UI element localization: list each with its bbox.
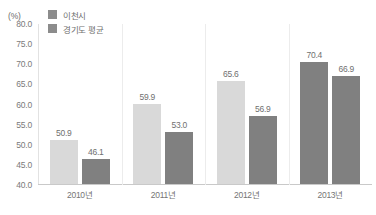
bar-value-label: 56.9 xyxy=(255,104,271,114)
y-axis: 80.075.070.065.060.055.050.045.040.0 xyxy=(0,0,36,215)
bar-value-label: 50.9 xyxy=(56,128,72,138)
y-axis-tick-label: 50.0 xyxy=(16,140,32,150)
bar[interactable] xyxy=(249,116,277,184)
bar[interactable] xyxy=(133,104,161,184)
group-divider xyxy=(205,24,206,185)
bar-group: 65.656.9 xyxy=(217,24,277,184)
bar[interactable] xyxy=(165,132,193,184)
group-divider xyxy=(289,24,290,185)
group-divider xyxy=(122,24,123,185)
bar[interactable] xyxy=(300,62,328,184)
bar-value-label: 59.9 xyxy=(139,92,155,102)
x-axis-tick-label: 2010년 xyxy=(67,188,92,200)
y-axis-tick-label: 40.0 xyxy=(16,180,32,190)
bar-value-label: 70.4 xyxy=(306,50,322,60)
bar[interactable] xyxy=(217,81,245,184)
y-axis-line xyxy=(38,24,39,185)
bar-chart: (%) 이천시 경기도 평균 80.075.070.065.060.055.05… xyxy=(0,0,376,215)
bar[interactable] xyxy=(332,76,360,184)
y-axis-tick-label: 55.0 xyxy=(16,120,32,130)
plot-area: 50.946.159.953.065.656.970.466.9 xyxy=(38,24,372,185)
y-axis-tick-label: 65.0 xyxy=(16,79,32,89)
x-axis-tick-label: 2012년 xyxy=(234,188,259,200)
bar-value-label: 53.0 xyxy=(171,120,187,130)
legend-label-series-1: 이천시 xyxy=(63,9,86,21)
y-axis-tick-label: 60.0 xyxy=(16,100,32,110)
bar-value-label: 65.6 xyxy=(223,69,239,79)
bar-group: 50.946.1 xyxy=(50,24,110,184)
x-axis-tick-label: 2013년 xyxy=(318,188,343,200)
y-axis-tick-label: 75.0 xyxy=(16,39,32,49)
x-axis: 2010년2011년2012년2013년 xyxy=(38,188,372,204)
y-axis-tick-label: 80.0 xyxy=(16,19,32,29)
bar-group: 59.953.0 xyxy=(133,24,193,184)
y-axis-tick-label: 70.0 xyxy=(16,59,32,69)
bar-value-label: 46.1 xyxy=(88,147,104,157)
y-axis-tick-label: 45.0 xyxy=(16,160,32,170)
x-axis-tick-label: 2011년 xyxy=(151,188,176,200)
bar-group: 70.466.9 xyxy=(300,24,360,184)
bar[interactable] xyxy=(50,140,78,184)
bar[interactable] xyxy=(82,159,110,184)
legend-swatch-icon-series-1 xyxy=(48,10,57,19)
legend-item-series-1: 이천시 xyxy=(48,9,104,20)
bar-value-label: 66.9 xyxy=(338,64,354,74)
